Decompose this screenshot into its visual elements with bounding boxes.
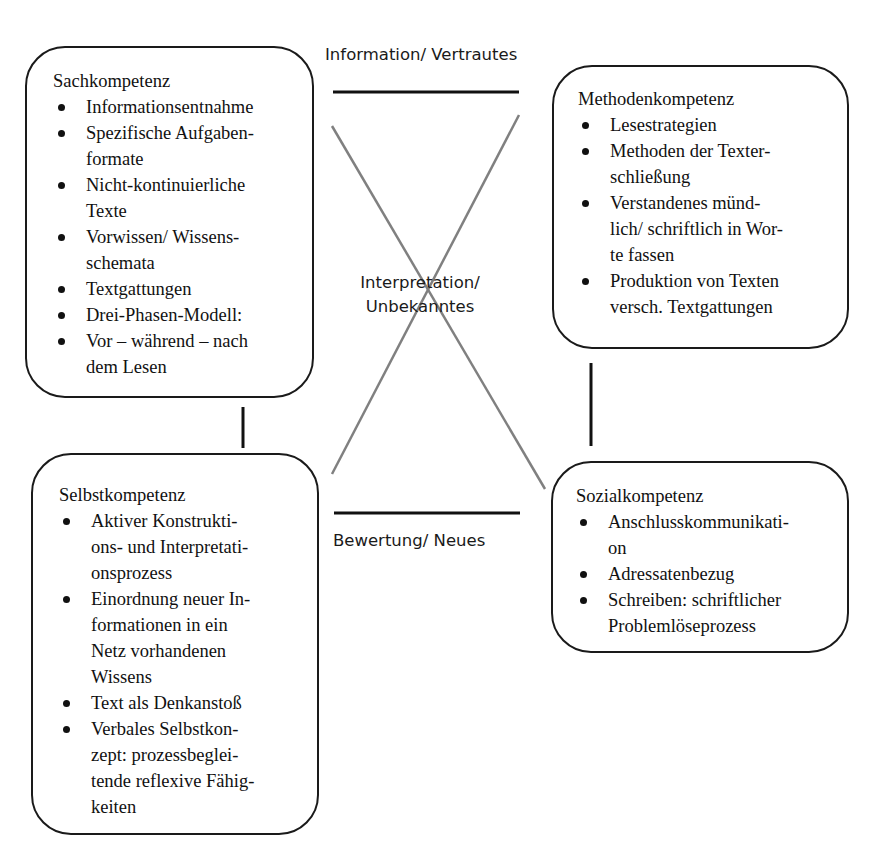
- bullet-icon: [58, 338, 65, 345]
- bullet-icon: [582, 278, 589, 285]
- box-sachkompetenz: Sachkompetenz Informationsentnahme Spezi…: [25, 46, 314, 398]
- bullet-icon: [63, 596, 70, 603]
- box-methodenkompetenz: Methodenkompetenz Lesestrategien Methode…: [552, 65, 849, 349]
- list-item: Vor – während – nach dem Lesen: [58, 328, 308, 380]
- item-list: Lesestrategien Methoden der Texter- schl…: [582, 112, 842, 320]
- list-item: Lesestrategien: [582, 112, 842, 138]
- bullet-icon: [63, 518, 70, 525]
- bullet-icon: [580, 571, 587, 578]
- list-item: Spezifische Aufgaben- formate: [58, 120, 308, 172]
- list-item: Adressatenbezug: [580, 561, 845, 587]
- bullet-icon: [58, 182, 65, 189]
- box-sozialkompetenz: Sozialkompetenz Anschlusskommunikati- on…: [551, 461, 849, 653]
- bullet-icon: [63, 700, 70, 707]
- bullet-icon: [582, 122, 589, 129]
- axis-label-top: Information/ Vertrautes: [325, 45, 517, 64]
- list-item: Nicht-kontinuierliche Texte: [58, 172, 308, 224]
- bullet-icon: [58, 130, 65, 137]
- box-title: Selbstkompetenz: [59, 482, 185, 508]
- bullet-icon: [58, 286, 65, 293]
- bullet-icon: [582, 200, 589, 207]
- list-item: Aktiver Konstrukti- ons- und Interpretat…: [63, 508, 313, 586]
- list-item: Informationsentnahme: [58, 94, 308, 120]
- list-item: Verbales Selbstkon- zept: prozessbeglei-…: [63, 716, 313, 820]
- bullet-icon: [580, 597, 587, 604]
- item-list: Informationsentnahme Spezifische Aufgabe…: [58, 94, 308, 380]
- list-item: Schreiben: schriftlicher Problemlöseproz…: [580, 587, 845, 639]
- competence-diagram: Information/ Vertrautes Interpretation/ …: [0, 0, 874, 867]
- list-item: Vorwissen/ Wissens- schemata: [58, 224, 308, 276]
- box-selbstkompetenz: Selbstkompetenz Aktiver Konstrukti- ons-…: [31, 453, 319, 835]
- box-title: Sachkompetenz: [53, 68, 170, 94]
- list-item: Textgattungen: [58, 276, 308, 302]
- bullet-icon: [582, 148, 589, 155]
- axis-label-center-line2: Unbekanntes: [354, 295, 486, 319]
- item-list: Anschlusskommunikati- on Adressatenbezug…: [580, 509, 845, 639]
- box-title: Methodenkompetenz: [578, 86, 734, 112]
- list-item: Drei-Phasen-Modell:: [58, 302, 308, 328]
- item-list: Aktiver Konstrukti- ons- und Interpretat…: [63, 508, 313, 820]
- bullet-icon: [58, 104, 65, 111]
- axis-label-center: Interpretation/ Unbekanntes: [354, 271, 486, 319]
- list-item: Text als Denkanstoß: [63, 690, 313, 716]
- list-item: Verstandenes münd- lich/ schriftlich in …: [582, 190, 842, 268]
- axis-label-center-line1: Interpretation/: [354, 271, 486, 295]
- bullet-icon: [63, 726, 70, 733]
- bullet-icon: [58, 312, 65, 319]
- list-item: Anschlusskommunikati- on: [580, 509, 845, 561]
- axis-label-bottom: Bewertung/ Neues: [333, 531, 485, 550]
- bullet-icon: [58, 234, 65, 241]
- box-title: Sozialkompetenz: [576, 483, 703, 509]
- list-item: Produktion von Texten versch. Textgattun…: [582, 268, 842, 320]
- bullet-icon: [580, 519, 587, 526]
- list-item: Einordnung neuer In- formationen in ein …: [63, 586, 313, 690]
- list-item: Methoden der Texter- schließung: [582, 138, 842, 190]
